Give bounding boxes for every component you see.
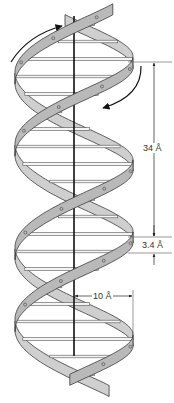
radius-label: 10 Å xyxy=(92,291,113,301)
base-pair-rung xyxy=(58,40,117,43)
dna-strand-segment xyxy=(70,335,133,385)
base-pair-rung xyxy=(30,128,89,131)
base-pair-rung xyxy=(23,163,133,166)
base-pair-rung xyxy=(28,233,133,236)
helix-drawing xyxy=(0,0,174,403)
base-pair-rung xyxy=(28,58,133,61)
pitch-label: 34 Å xyxy=(142,143,163,153)
rise-label: 3.4 Å xyxy=(141,240,164,250)
dna-strand-segment xyxy=(15,321,109,397)
base-pair-rung xyxy=(58,215,117,218)
base-pair-rung xyxy=(15,320,120,323)
dna-strand-segment xyxy=(15,4,113,84)
dna-helix-diagram: 34 Å 3.4 Å 10 Å xyxy=(0,0,174,403)
base-pair-rung xyxy=(30,303,89,306)
base-pair-rung xyxy=(15,145,120,148)
base-pair-rung xyxy=(23,338,133,341)
